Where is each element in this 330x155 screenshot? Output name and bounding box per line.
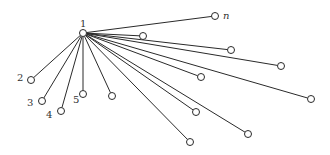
node-label-4: 4 bbox=[46, 109, 52, 120]
node-leaf-11 bbox=[228, 47, 235, 54]
node-label-2: 2 bbox=[17, 72, 23, 83]
node-5 bbox=[80, 91, 87, 98]
edges bbox=[34, 16, 308, 139]
node-leaf-8 bbox=[308, 96, 315, 103]
node-leaf-6 bbox=[245, 131, 252, 138]
node-hub-1 bbox=[80, 30, 87, 37]
node-leaf-4 bbox=[109, 93, 116, 100]
node-leaf-10 bbox=[278, 63, 285, 70]
node-n bbox=[212, 13, 219, 20]
node-leaf-5 bbox=[187, 139, 194, 146]
edge-1-to-n bbox=[86, 16, 211, 32]
node-leaf-9 bbox=[198, 74, 205, 81]
edge-1-to-3 bbox=[44, 36, 81, 98]
node-label-3: 3 bbox=[27, 97, 33, 108]
star-graph-diagram: 2345n1 bbox=[0, 0, 330, 155]
edge-1-to-leaf-4 bbox=[84, 36, 110, 93]
graph-svg: 2345n1 bbox=[0, 0, 330, 155]
node-label-5: 5 bbox=[73, 94, 79, 105]
node-label-n: n bbox=[223, 10, 229, 21]
edge-1-to-2 bbox=[34, 35, 81, 77]
node-leaf-7 bbox=[193, 109, 200, 116]
node-leaf-12 bbox=[140, 33, 147, 40]
node-4 bbox=[58, 108, 65, 115]
nodes bbox=[28, 13, 315, 146]
edge-1-to-leaf-8 bbox=[86, 34, 307, 98]
edge-1-to-leaf-7 bbox=[86, 35, 193, 110]
edge-1-to-leaf-11 bbox=[86, 33, 227, 49]
edge-1-to-leaf-10 bbox=[86, 34, 277, 66]
node-2 bbox=[28, 77, 35, 84]
node-label-1: 1 bbox=[80, 18, 86, 29]
node-3 bbox=[39, 98, 46, 105]
